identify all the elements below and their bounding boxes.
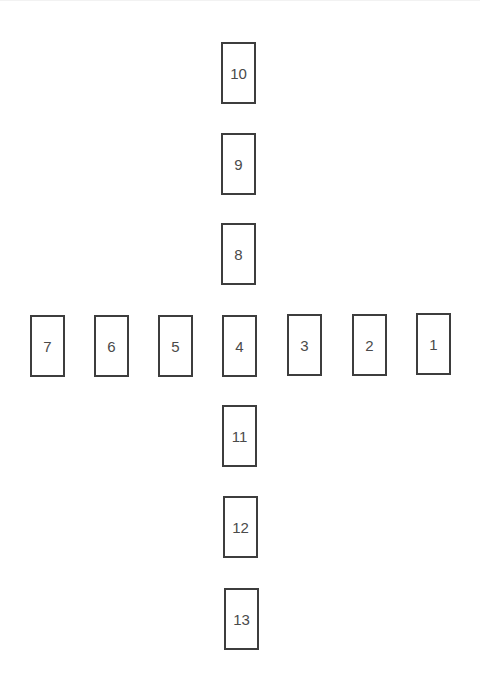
card-8: 8 <box>221 223 256 285</box>
card-3: 3 <box>287 314 322 376</box>
card-number: 3 <box>300 338 308 353</box>
card-10: 10 <box>221 42 256 104</box>
card-number: 9 <box>234 157 242 172</box>
card-number: 7 <box>43 339 51 354</box>
card-number: 8 <box>234 247 242 262</box>
card-5: 5 <box>158 315 193 377</box>
card-number: 5 <box>171 339 179 354</box>
card-11: 11 <box>222 405 257 467</box>
card-13: 13 <box>224 588 259 650</box>
top-rule <box>0 0 480 1</box>
card-7: 7 <box>30 315 65 377</box>
card-number: 6 <box>107 339 115 354</box>
card-number: 2 <box>365 338 373 353</box>
card-number: 1 <box>429 337 437 352</box>
card-number: 12 <box>232 520 249 535</box>
card-4: 4 <box>222 315 257 377</box>
card-number: 10 <box>230 66 247 81</box>
card-number: 11 <box>232 429 248 444</box>
card-12: 12 <box>223 496 258 558</box>
card-2: 2 <box>352 314 387 376</box>
card-9: 9 <box>221 133 256 195</box>
card-6: 6 <box>94 315 129 377</box>
card-1: 1 <box>416 313 451 375</box>
card-number: 4 <box>235 339 243 354</box>
card-number: 13 <box>233 612 250 627</box>
